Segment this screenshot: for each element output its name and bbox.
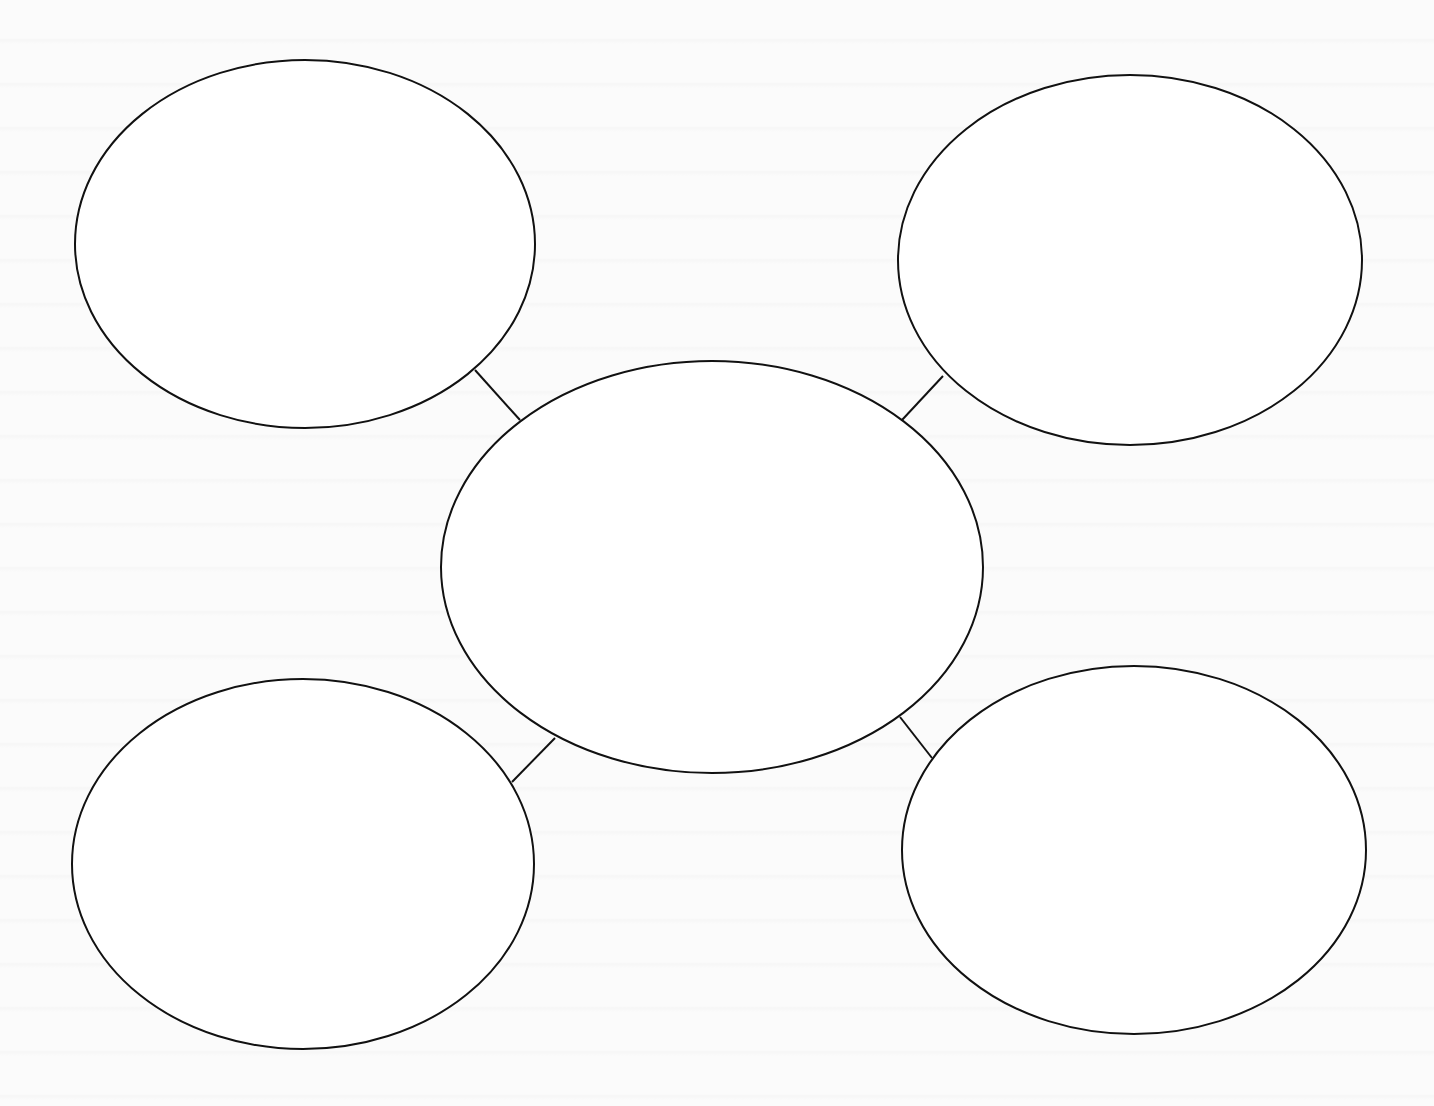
bubble-bottom-right <box>902 666 1366 1034</box>
connector-top-left <box>475 370 520 420</box>
bubble-center <box>441 361 983 773</box>
bubble-bottom-left <box>72 679 534 1049</box>
bubble-top-right <box>898 75 1362 445</box>
bubble-top-left <box>75 60 535 428</box>
bubble-map-diagram <box>0 0 1434 1106</box>
connector-bottom-right <box>900 717 932 758</box>
connector-top-right <box>902 376 943 420</box>
connector-bottom-left <box>512 738 555 782</box>
